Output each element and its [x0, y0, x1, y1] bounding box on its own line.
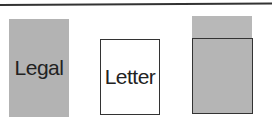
legal-overflow-region — [192, 16, 252, 39]
top-rule — [0, 3, 272, 6]
letter-paper-shape: Letter — [100, 39, 160, 115]
letter-overlay-on-legal — [192, 38, 253, 114]
legal-label: Legal — [15, 56, 64, 80]
legal-paper-shape: Legal — [9, 19, 69, 117]
letter-label: Letter — [105, 65, 156, 89]
